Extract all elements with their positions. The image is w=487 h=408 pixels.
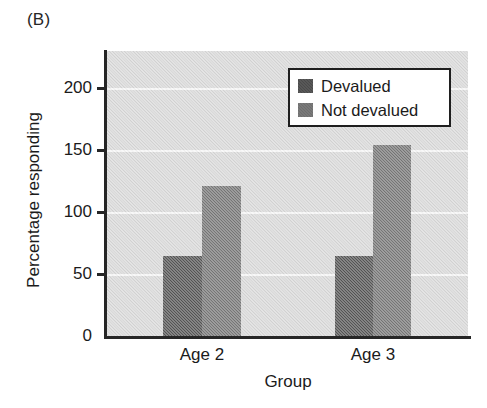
y-tick-mark <box>97 87 107 90</box>
y-tick-mark <box>97 149 107 152</box>
bar-texture <box>202 186 241 336</box>
gridline <box>107 274 468 276</box>
bar-texture <box>373 145 411 336</box>
y-axis-line <box>104 50 107 338</box>
y-tick-mark <box>97 273 107 276</box>
x-tick-label: Age 3 <box>313 345 433 365</box>
y-axis-title: Percentage responding <box>24 80 44 320</box>
gridline <box>107 212 468 214</box>
bar-texture <box>163 256 202 336</box>
gridline <box>107 150 468 152</box>
chart-legend: DevaluedNot devalued <box>288 68 451 127</box>
legend-item: Devalued <box>298 74 449 98</box>
legend-label: Devalued <box>321 78 391 95</box>
legend-swatch-texture <box>298 103 313 117</box>
legend-swatch-texture <box>298 79 313 93</box>
legend-item: Not devalued <box>298 98 449 122</box>
legend-swatch <box>298 79 313 93</box>
y-tick-label: 0 <box>32 327 92 344</box>
legend-swatch <box>298 103 313 117</box>
bar-age-3-not-devalued <box>373 145 411 336</box>
figure-panel-b: (B) 200150100500 Percentage responding A… <box>0 0 487 408</box>
bar-age-2-not-devalued <box>202 186 241 336</box>
y-tick-mark <box>97 211 107 214</box>
legend-label: Not devalued <box>321 102 418 119</box>
x-axis-line <box>104 336 471 339</box>
x-tick-label: Age 2 <box>142 345 262 365</box>
bar-age-3-devalued <box>335 256 373 336</box>
x-axis-title: Group <box>228 372 348 392</box>
bar-age-2-devalued <box>163 256 202 336</box>
bar-texture <box>335 256 373 336</box>
